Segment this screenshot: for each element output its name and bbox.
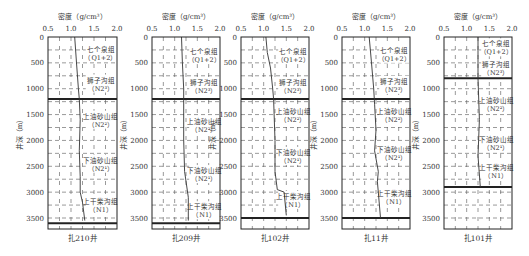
formation-code: （Q1+2） xyxy=(378,55,411,63)
y-tick-label: 2500 xyxy=(422,163,440,171)
x-tick-label: 1.0 xyxy=(65,25,76,33)
formation-code: （Q1+2） xyxy=(277,56,310,64)
y-axis-label: 井深（m） xyxy=(119,116,128,151)
y-tick-label: 1500 xyxy=(422,111,440,119)
formation-code: （N2¹） xyxy=(88,165,114,173)
formation-name: 狮子沟组 xyxy=(279,78,307,87)
y-tick-label: 1000 xyxy=(320,85,338,93)
formation-name: 上油砂山组 xyxy=(83,112,118,121)
formation-code: （N2²） xyxy=(483,105,509,113)
y-tick-label: 1000 xyxy=(219,85,237,93)
y-tick-label: 3500 xyxy=(130,215,148,223)
formation-name: 下油砂山组 xyxy=(187,166,222,175)
formation-code: （N2²） xyxy=(280,116,306,124)
y-tick-label: 1000 xyxy=(130,85,148,93)
y-tick-label: 1500 xyxy=(26,111,44,119)
formation-name: 狮子沟组 xyxy=(87,76,115,85)
formation-code: （Q1+2） xyxy=(84,54,117,62)
formation-code: （N2¹） xyxy=(483,144,509,152)
x-axis-label: 密度（g/cm³） xyxy=(162,12,210,21)
y-axis-label: 井深（m） xyxy=(309,116,318,151)
x-tick-label: 2.0 xyxy=(214,25,225,33)
formation-code: （N2¹） xyxy=(191,175,217,183)
y-tick-label: 3500 xyxy=(320,215,338,223)
formation-code: （N1） xyxy=(89,206,113,214)
x-tick-label: 1.5 xyxy=(88,25,99,33)
formation-name: 上油砂山组 xyxy=(479,96,514,105)
formation-code: （N1） xyxy=(192,211,216,219)
y-tick-label: 2000 xyxy=(130,137,148,145)
well-title: 扎11井 xyxy=(364,233,389,243)
y-tick-label: 500 xyxy=(135,59,148,67)
formation-name: 七个泉组 xyxy=(279,47,307,56)
formation-name: 上干柴沟组 xyxy=(83,197,118,206)
formation-name: 下油砂山组 xyxy=(479,135,514,144)
formation-name: 狮子沟组 xyxy=(190,78,218,87)
formation-code: （Q1+2） xyxy=(188,56,221,64)
formation-name: 七个泉组 xyxy=(190,47,218,56)
formation-name: 狮子沟组 xyxy=(482,60,510,69)
x-tick-label: 0.5 xyxy=(235,25,246,33)
y-tick-label: 3500 xyxy=(26,215,44,223)
y-tick-label: 3000 xyxy=(320,189,338,197)
x-tick-label: 2.0 xyxy=(506,25,517,33)
y-tick-label: 3500 xyxy=(422,215,440,223)
formation-code: （N1） xyxy=(382,198,406,206)
x-tick-label: 1.0 xyxy=(169,25,180,33)
y-tick-label: 2500 xyxy=(320,163,338,171)
x-tick-label: 2.0 xyxy=(404,25,415,33)
y-tick-label: 1500 xyxy=(320,111,338,119)
well-panel: 密度（g/cm³）0.51.01.52.00500100015002000250… xyxy=(309,12,416,243)
chart-canvas: 密度（g/cm³）0.51.01.52.00500100015002000250… xyxy=(0,0,529,256)
well-title: 扎101井 xyxy=(464,233,493,243)
x-axis-label: 密度（g/cm³） xyxy=(251,12,299,21)
formation-name: 七个泉组 xyxy=(482,39,510,48)
x-tick-label: 2.0 xyxy=(303,25,314,33)
formation-code: （N2²） xyxy=(88,121,114,129)
well-title: 扎102井 xyxy=(261,233,290,243)
y-tick-label: 1000 xyxy=(422,85,440,93)
well-panel: 密度（g/cm³）0.51.01.52.00500100015002000250… xyxy=(411,12,518,243)
y-tick-label: 2500 xyxy=(219,163,237,171)
y-tick-label: 2000 xyxy=(219,137,237,145)
y-tick-label: 0 xyxy=(233,34,237,42)
x-tick-label: 0.5 xyxy=(438,25,449,33)
density-curve xyxy=(75,37,85,221)
y-tick-label: 1000 xyxy=(26,85,44,93)
formation-code: （N1） xyxy=(484,172,508,180)
formation-name: 下油砂山组 xyxy=(276,148,311,157)
y-tick-label: 2000 xyxy=(320,137,338,145)
y-tick-label: 0 xyxy=(40,34,44,42)
y-tick-label: 3000 xyxy=(422,189,440,197)
formation-name: 上干柴沟组 xyxy=(377,189,412,198)
y-tick-label: 2500 xyxy=(130,163,148,171)
formation-code: （N2¹） xyxy=(381,154,407,162)
formation-name: 狮子沟组 xyxy=(380,77,408,86)
y-axis-label: 井深（m） xyxy=(208,116,217,151)
formation-name: 上干柴沟组 xyxy=(276,192,311,201)
y-tick-label: 0 xyxy=(334,34,338,42)
y-tick-label: 2000 xyxy=(26,137,44,145)
y-tick-label: 500 xyxy=(224,59,237,67)
y-axis-label: 井深（m） xyxy=(15,116,24,151)
x-tick-label: 1.0 xyxy=(359,25,370,33)
formation-code: （N2³） xyxy=(88,85,114,93)
y-tick-label: 3000 xyxy=(219,189,237,197)
formation-code: （Q1+2） xyxy=(480,48,513,56)
formation-name: 下油砂山组 xyxy=(83,156,118,165)
formation-code: （N2³） xyxy=(280,87,306,95)
x-tick-label: 0.5 xyxy=(146,25,157,33)
y-tick-label: 2000 xyxy=(422,137,440,145)
formation-name: 下油砂山组 xyxy=(377,145,412,154)
y-tick-label: 500 xyxy=(427,59,440,67)
formation-code: （N2²） xyxy=(381,116,407,124)
formation-name: 上干柴沟组 xyxy=(187,202,222,211)
well-title: 扎210井 xyxy=(68,233,97,243)
density-curve xyxy=(182,37,189,221)
x-tick-label: 1.0 xyxy=(258,25,269,33)
x-axis-label: 密度（g/cm³） xyxy=(352,12,400,21)
y-tick-label: 1500 xyxy=(130,111,148,119)
formation-code: （N2³） xyxy=(191,87,217,95)
x-tick-label: 1.5 xyxy=(484,25,495,33)
well-panel: 密度（g/cm³）0.51.01.52.00500100015002000250… xyxy=(208,12,315,243)
